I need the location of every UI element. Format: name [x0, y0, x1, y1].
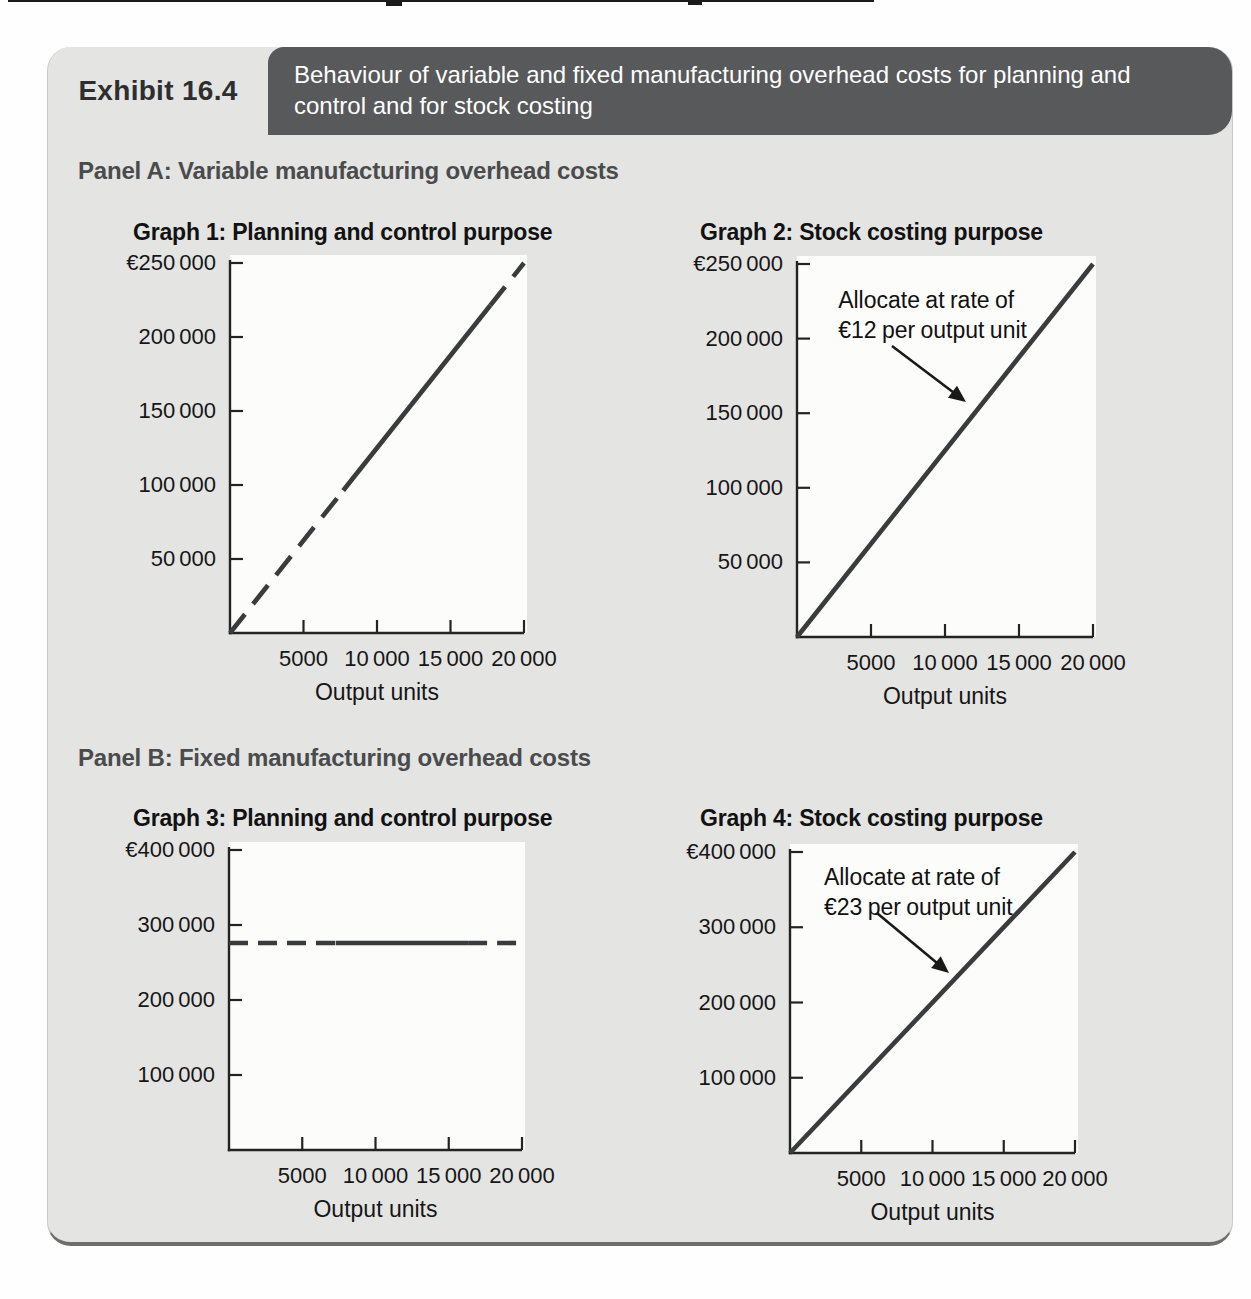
y-tick-label: 50 000 — [84, 546, 216, 572]
graph-title: Graph 1: Planning and control purpose — [133, 219, 552, 246]
y-tick-label: 100 000 — [644, 1065, 776, 1091]
y-tick-label: 150 000 — [651, 400, 783, 426]
panel-a-heading: Panel A: Variable manufacturing overhead… — [78, 157, 619, 185]
y-tick-label: 100 000 — [84, 472, 216, 498]
x-tick-label: 20 000 — [474, 1163, 570, 1189]
y-tick-label: 50 000 — [651, 549, 783, 575]
y-tick-label: €250 000 — [84, 250, 216, 276]
scan-artifact-line — [8, 0, 874, 2]
exhibit-header: Exhibit 16.4 Behaviour of variable and f… — [48, 47, 1232, 135]
y-tick-label: 200 000 — [644, 990, 776, 1016]
x-axis-title: Output units — [797, 683, 1093, 710]
y-tick-label: 300 000 — [83, 912, 215, 938]
exhibit-title-bar: Behaviour of variable and fixed manufact… — [268, 47, 1232, 135]
y-tick-label: 200 000 — [651, 326, 783, 352]
annotation-text: Allocate at rate of €23 per output unit — [824, 862, 1013, 922]
x-tick-label: 20 000 — [1045, 650, 1141, 676]
graph-title: Graph 3: Planning and control purpose — [133, 805, 552, 832]
y-tick-label: 100 000 — [83, 1062, 215, 1088]
exhibit-title-line-1: Behaviour of variable and fixed manufact… — [294, 59, 1206, 90]
y-tick-label: 200 000 — [83, 987, 215, 1013]
scan-artifact-mark — [688, 0, 702, 5]
x-axis-title: Output units — [790, 1199, 1075, 1226]
exhibit-title-line-2: control and for stock costing — [294, 90, 1206, 121]
graph-title: Graph 2: Stock costing purpose — [700, 219, 1043, 246]
y-tick-label: €400 000 — [644, 839, 776, 865]
y-tick-label: €400 000 — [83, 837, 215, 863]
y-tick-label: €250 000 — [651, 251, 783, 277]
y-tick-label: 300 000 — [644, 914, 776, 940]
y-tick-label: 200 000 — [84, 324, 216, 350]
y-tick-label: 100 000 — [651, 475, 783, 501]
scan-artifact-mark — [386, 0, 402, 6]
x-axis-title: Output units — [230, 679, 524, 706]
x-axis-title: Output units — [229, 1196, 522, 1223]
exhibit-number: Exhibit 16.4 — [78, 75, 237, 107]
exhibit-label-tab: Exhibit 16.4 — [48, 47, 268, 135]
annotation-text: Allocate at rate of €12 per output unit — [838, 285, 1027, 345]
x-tick-label: 20 000 — [1027, 1166, 1123, 1192]
x-tick-label: 20 000 — [476, 646, 572, 672]
graph-title: Graph 4: Stock costing purpose — [700, 805, 1043, 832]
panel-b-heading: Panel B: Fixed manufacturing overhead co… — [78, 744, 591, 772]
y-tick-label: 150 000 — [84, 398, 216, 424]
